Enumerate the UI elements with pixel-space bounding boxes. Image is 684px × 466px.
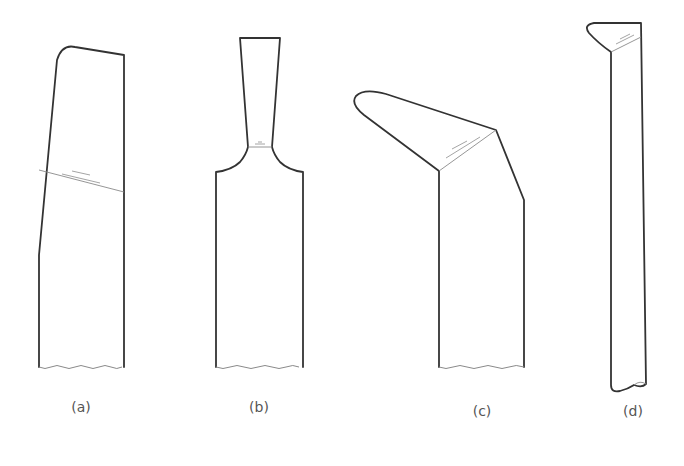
caption-b: (b) [249,399,269,415]
caption-d: (d) [623,403,643,419]
caption-c: (c) [473,403,492,419]
tool-c [354,91,524,368]
tool-a [39,47,124,369]
tool-d [587,23,646,391]
tool-figure [0,0,684,466]
tool-b [216,38,303,369]
caption-a: (a) [71,399,91,415]
